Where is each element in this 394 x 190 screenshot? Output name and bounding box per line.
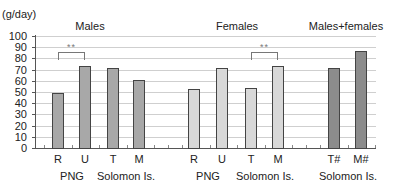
y-tick-label: 60	[0, 75, 27, 86]
x-tick-mark	[72, 145, 73, 148]
y-tick-mark	[32, 70, 36, 71]
y-tick-label: 40	[0, 98, 27, 109]
bar-males-t	[107, 68, 119, 149]
gridline	[36, 58, 376, 59]
bar-males-r	[52, 93, 64, 149]
x-tick-mark	[306, 145, 307, 148]
y-tick-label: 100	[0, 31, 27, 42]
subgroup-label-females-solomon: Solomon Is.	[236, 170, 294, 182]
subgroup-label-males-solomon: Solomon Is.	[97, 170, 155, 182]
x-category-label: U	[210, 153, 234, 165]
x-tick-mark	[154, 145, 155, 148]
y-tick-mark	[32, 81, 36, 82]
significance-bracket	[251, 52, 278, 60]
y-tick-mark	[32, 92, 36, 93]
subgroup-label-males-png: PNG	[60, 170, 84, 182]
x-tick-mark	[44, 145, 45, 148]
x-tick-mark	[320, 145, 321, 148]
bar-females-t	[245, 88, 257, 149]
y-tick-label: 30	[0, 109, 27, 120]
y-tick-mark	[32, 126, 36, 127]
y-tick-label: 0	[0, 143, 27, 154]
bar-males-m	[133, 80, 145, 149]
x-tick-mark	[168, 145, 169, 148]
bar-females-u	[216, 68, 228, 149]
significance-marker: **	[67, 42, 76, 52]
x-category-label: T	[101, 153, 125, 165]
x-category-label: T	[239, 153, 263, 165]
x-category-label: R	[46, 153, 70, 165]
y-tick-mark	[32, 58, 36, 59]
gridline	[36, 36, 376, 37]
x-tick-mark	[375, 145, 376, 148]
group-title-combined: Males+females	[309, 20, 383, 32]
x-category-label: T#	[322, 153, 346, 165]
x-category-label: R	[182, 153, 206, 165]
group-title-females: Females	[216, 20, 258, 32]
y-tick-mark	[32, 137, 36, 138]
significance-marker: **	[260, 42, 269, 52]
y-tick-label: 80	[0, 53, 27, 64]
y-tick-label: 20	[0, 120, 27, 131]
x-tick-mark	[237, 145, 238, 148]
x-tick-mark	[99, 145, 100, 148]
y-tick-mark	[32, 47, 36, 48]
y-tick-mark	[32, 114, 36, 115]
x-tick-mark	[265, 145, 266, 148]
group-title-males: Males	[75, 20, 104, 32]
y-tick-label: 50	[0, 87, 27, 98]
subgroup-label-females-png: PNG	[196, 170, 220, 182]
y-tick-label: 90	[0, 42, 27, 53]
x-category-label: M	[127, 153, 151, 165]
subgroup-label-combined-solomon: Solomon Is.	[319, 170, 377, 182]
x-category-label: M	[266, 153, 290, 165]
bar-males-females-m-hash	[355, 51, 367, 149]
significance-bracket	[58, 52, 85, 60]
bar-males-females-t-hash	[328, 68, 340, 149]
x-tick-mark	[127, 145, 128, 148]
y-tick-label: 70	[0, 64, 27, 75]
y-tick-mark	[32, 103, 36, 104]
y-tick-label: 10	[0, 131, 27, 142]
x-category-label: M#	[349, 153, 373, 165]
gridline	[36, 47, 376, 48]
x-tick-mark	[292, 145, 293, 148]
x-tick-mark	[182, 145, 183, 148]
x-category-label: U	[73, 153, 97, 165]
bar-males-u	[79, 66, 91, 149]
bar-females-m	[272, 66, 284, 149]
y-axis-unit-label: (g/day)	[2, 8, 36, 20]
y-tick-mark	[32, 36, 36, 37]
bar-females-r	[188, 89, 200, 149]
x-tick-mark	[210, 145, 211, 148]
x-tick-mark	[348, 145, 349, 148]
